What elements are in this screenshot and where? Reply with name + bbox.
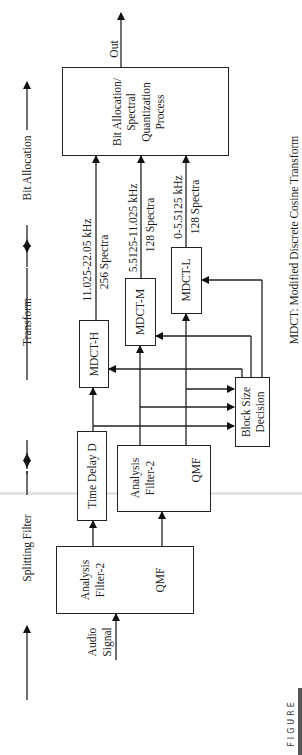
bit-alloc-label-line1: Bit Allocation/	[111, 78, 124, 146]
figure-marker-bar	[298, 688, 302, 755]
mid-band-spectra: 128 Spectra	[144, 198, 157, 253]
qmf1-label-line3: QMF	[154, 568, 167, 593]
mid-band-frequency: 5.5125-11.025 kHz	[127, 184, 140, 273]
analysis-filter-qmf-1	[56, 546, 194, 614]
mdct-l-label: MDCT-L	[180, 258, 193, 301]
block-size-label-line2: Decision	[254, 392, 267, 433]
mdct-h-label: MDCT-H	[88, 332, 101, 376]
qmf1-label-line2: Filter-2	[94, 563, 107, 597]
mdct-m-label: MDCT-M	[134, 289, 147, 335]
figure-label: FIGURE	[287, 699, 296, 747]
bit-alloc-label-line3: Quantization	[140, 82, 153, 141]
footnote: MDCT: Modified Discrete Cosine Transform	[288, 136, 301, 344]
high-band-frequency: 11.025-22.05 kHz	[81, 219, 94, 302]
stage-label-bit-allocation: Bit Allocation	[21, 136, 34, 201]
low-band-spectra: 128 Spectra	[189, 180, 202, 235]
qmf1-label-line1: Analysis	[79, 560, 92, 600]
audio-signal-label-line1: Audio	[86, 628, 99, 657]
block-size-label-line1: Block Size	[240, 387, 253, 437]
bit-alloc-label-line4: Process	[154, 94, 167, 129]
low-band-frequency: 0-5.5125 kHz	[172, 175, 185, 238]
bit-alloc-label-line2: Spectral	[125, 93, 138, 131]
qmf2-label-line1: Analysis	[129, 458, 142, 498]
qmf2-label-line3: QMF	[190, 458, 203, 483]
stage-label-transform: Transform	[21, 298, 34, 346]
qmf2-label-line2: Filter-2	[144, 461, 157, 495]
audio-signal-label-line2: Signal	[101, 627, 114, 656]
output-label: Out	[108, 40, 121, 57]
stage-label-splitting-filter: Splitting Filter	[21, 514, 34, 581]
time-delay-label: Time Delay D	[86, 443, 99, 508]
high-band-spectra: 256 Spectra	[98, 235, 111, 290]
